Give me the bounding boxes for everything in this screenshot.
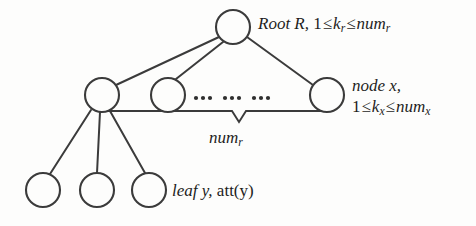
ellipsis-dot <box>259 96 263 100</box>
ellipsis-dot <box>194 96 198 100</box>
node-variable-sub: x <box>379 105 384 118</box>
leaf-label: leaf y, att(y) <box>172 181 254 201</box>
leaf-node-2[interactable] <box>80 173 114 207</box>
node-bound: num <box>396 97 425 116</box>
node-bound-sub: x <box>425 105 430 118</box>
edge-node1-to-leaf1 <box>50 110 91 174</box>
node-rel-right: ≤ <box>385 97 396 116</box>
root-rel-left: ≤ <box>322 14 333 33</box>
node-group <box>26 10 344 207</box>
ellipsis-dot <box>266 96 270 100</box>
edge-node1-to-leaf3 <box>110 111 145 173</box>
brace-group <box>108 111 325 122</box>
node-label: node x, 1≤kx≤numx <box>352 76 430 117</box>
ellipsis-dot <box>208 96 212 100</box>
internal-node-2[interactable] <box>151 78 185 112</box>
ellipsis-dot <box>252 96 256 100</box>
leaf-node-3[interactable] <box>132 173 166 207</box>
root-rel-right: ≤ <box>345 14 356 33</box>
node-lower-bound: 1 <box>352 97 361 116</box>
ellipsis-dot <box>230 96 234 100</box>
ellipsis-group <box>194 96 270 100</box>
leaf-label-italic: leaf y, <box>172 181 213 200</box>
leaf-node-1[interactable] <box>26 173 60 207</box>
root-node[interactable] <box>216 10 250 44</box>
tree-structure-diagram: Root R, 1≤kr≤numr node x, 1≤kx≤numx numr… <box>0 0 476 226</box>
root-label-prefix: Root R, <box>258 14 309 33</box>
ellipsis-dot <box>201 96 205 100</box>
brace-label-text: num <box>209 128 238 147</box>
leaf-label-roman: att(y) <box>217 181 254 200</box>
node-label-line-2: 1≤kx≤numx <box>352 97 430 117</box>
node-label-line-1: node x, <box>352 76 430 96</box>
brace-label-sub: r <box>238 136 243 149</box>
root-bound: num <box>356 14 385 33</box>
node-rel-left: ≤ <box>361 97 372 116</box>
internal-node-3[interactable] <box>310 78 344 112</box>
ellipsis-dot <box>237 96 241 100</box>
root-bound-sub: r <box>386 22 391 35</box>
root-variable: k <box>333 14 341 33</box>
brace-num-r <box>108 111 325 122</box>
edge-node1-to-leaf2 <box>97 112 100 173</box>
root-lower-bound: 1 <box>313 14 322 33</box>
brace-label: numr <box>209 128 243 148</box>
internal-node-1[interactable] <box>85 78 119 112</box>
ellipsis-dot <box>223 96 227 100</box>
edge-root-to-node3 <box>247 37 313 85</box>
edge-root-to-node2 <box>176 42 223 79</box>
root-label: Root R, 1≤kr≤numr <box>258 14 390 34</box>
